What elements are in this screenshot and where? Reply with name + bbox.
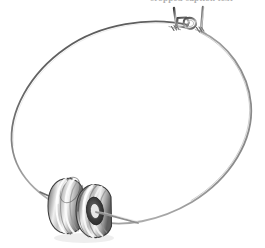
necklace-wire (12, 21, 252, 223)
wire-arc-highlight (13, 23, 188, 146)
necklace-illustration: Wire necklace with hook clasp and two gr… (0, 0, 265, 248)
wire-arc-right-lower (98, 31, 251, 224)
wire-arc-right-shadow (191, 33, 250, 201)
bead-right (76, 184, 138, 239)
figure-stage: Wire necklace with hook clasp and two gr… (0, 0, 265, 248)
clasp-hook-loop (184, 18, 196, 29)
clasp-assembly (169, 7, 207, 34)
